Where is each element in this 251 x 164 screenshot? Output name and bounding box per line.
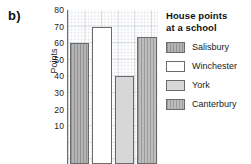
- y-tick-60: 60: [54, 39, 64, 48]
- legend-label-york: York: [192, 80, 210, 90]
- bar-winchester: [92, 27, 112, 164]
- legend-swatch-winchester: [166, 61, 185, 72]
- y-tick-30: 30: [54, 89, 64, 98]
- legend-item-winchester: Winchester: [166, 60, 251, 73]
- legend-swatch-york: [166, 80, 185, 91]
- y-tick-50: 50: [54, 56, 64, 65]
- y-axis-tick-labels: 8070605040302010: [40, 10, 66, 164]
- part-label: b): [8, 8, 21, 23]
- legend-swatch-canterbury: [166, 99, 185, 110]
- plot-area: [67, 10, 158, 164]
- legend-item-canterbury: Canterbury: [166, 98, 251, 111]
- legend: House points at a school SalisburyWinche…: [166, 10, 251, 117]
- legend-label-winchester: Winchester: [192, 61, 237, 71]
- legend-item-salisbury: Salisbury: [166, 41, 251, 54]
- legend-label-salisbury: Salisbury: [192, 42, 229, 52]
- bar-york: [115, 76, 135, 164]
- legend-label-canterbury: Canterbury: [192, 99, 237, 109]
- legend-title-line-2: at a school: [166, 22, 251, 34]
- chart-figure: b) Points 8070605040302010 House points …: [0, 0, 251, 164]
- legend-item-york: York: [166, 79, 251, 92]
- bar-series: [68, 10, 158, 164]
- legend-swatch-salisbury: [166, 42, 185, 53]
- legend-title-line-1: House points: [166, 10, 251, 22]
- bar-chart: Points 8070605040302010: [26, 10, 158, 164]
- y-tick-40: 40: [54, 72, 64, 81]
- y-tick-70: 70: [54, 22, 64, 31]
- legend-title: House points at a school: [166, 10, 251, 34]
- y-tick-80: 80: [54, 6, 64, 15]
- y-tick-10: 10: [54, 122, 64, 131]
- legend-items: SalisburyWinchesterYorkCanterbury: [166, 41, 251, 111]
- bar-salisbury: [70, 43, 90, 164]
- bar-canterbury: [137, 37, 157, 164]
- y-tick-20: 20: [54, 105, 64, 114]
